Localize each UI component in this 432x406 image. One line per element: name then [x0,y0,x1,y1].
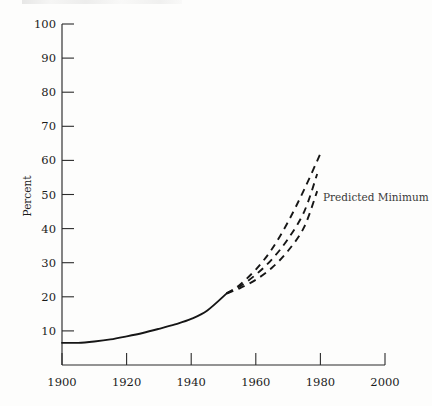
y-tick-label-70: 70 [41,119,56,133]
x-tick-label-1960: 1960 [241,375,270,389]
y-tick-group: 102030405060708090100 [34,17,74,338]
x-tick-group: 190019201940196019802000 [47,353,399,389]
y-tick-label-50: 50 [41,188,56,202]
y-tick-label-80: 80 [41,85,56,99]
series-observed [62,293,227,343]
x-tick-label-1980: 1980 [306,375,335,389]
x-tick-label-2000: 2000 [370,375,399,389]
chart-page: 102030405060708090100 190019201940196019… [0,0,432,406]
y-tick-label-100: 100 [34,17,56,31]
y-tick-label-10: 10 [41,324,56,338]
series-predicted-maximum [227,154,321,294]
series-group [62,154,320,343]
x-tick-label-1940: 1940 [177,375,206,389]
annotation-predicted-minimum: Predicted Minimum [323,191,429,203]
series-predicted-minimum [227,191,317,293]
y-tick-label-20: 20 [41,290,56,304]
y-tick-label-40: 40 [41,222,56,236]
x-tick-label-1900: 1900 [47,375,76,389]
y-tick-label-30: 30 [41,256,56,270]
y-tick-label-90: 90 [41,51,56,65]
x-tick-label-1920: 1920 [112,375,141,389]
y-axis-title: Percent [21,175,33,217]
y-tick-label-60: 60 [41,153,56,167]
line-chart: 102030405060708090100 190019201940196019… [0,0,432,406]
